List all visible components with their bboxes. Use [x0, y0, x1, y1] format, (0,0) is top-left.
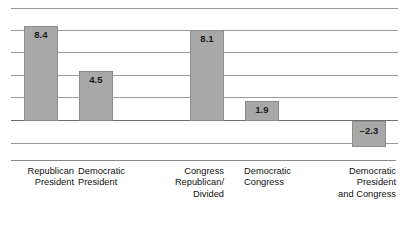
category-label-republican-president: Republican President [8, 166, 74, 189]
bar-value-0: 8.4 [24, 29, 58, 40]
axis-separator [11, 160, 396, 161]
bar-value-1: 4.5 [79, 74, 113, 85]
bar-value-3: 1.9 [245, 104, 279, 115]
gridline-6 [11, 143, 398, 144]
bar-value-2: 8.1 [190, 33, 224, 44]
category-label-democratic-president: Democratic President [78, 166, 148, 189]
plot-area: 8.4 4.5 8.1 1.9 –2.3 [0, 0, 414, 160]
category-label-congress-republican-divided: Congress Republican/ Divided [166, 166, 224, 200]
bar-chart: 8.4 4.5 8.1 1.9 –2.3 Republican Presiden… [0, 0, 414, 225]
bar-value-4: –2.3 [350, 125, 388, 136]
bar-republican-president [24, 26, 58, 121]
category-label-democratic-president-and-congress: Democratic President and Congress [310, 166, 396, 200]
gridline-0 [11, 8, 398, 9]
category-label-democratic-congress: Democratic Congress [244, 166, 316, 189]
category-axis: Republican President Democratic Presiden… [0, 166, 414, 224]
